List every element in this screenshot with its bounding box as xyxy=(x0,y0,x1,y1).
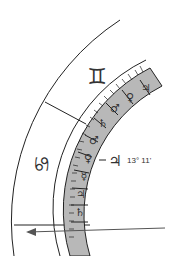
ascendant-arrow-line xyxy=(28,228,165,232)
arrow-head-icon xyxy=(26,228,36,236)
band-glyph-saturn-2: ♄ xyxy=(75,206,85,219)
astrology-wheel-fragment: ♃ ♀ ♂ ♄ ♂ ♀ ☿ ♃ ♄ ♊ ♋ ♃ 13° 11' xyxy=(0,0,174,256)
sign-gemini-icon: ♊ xyxy=(87,64,107,89)
sign-divider-line xyxy=(45,102,86,124)
band-glyph-jupiter: ♃ xyxy=(141,82,151,95)
sign-cancer-icon: ♋ xyxy=(30,155,54,173)
band-glyph-venus-2: ♀ xyxy=(84,152,92,165)
band-glyph-saturn: ♄ xyxy=(98,117,108,130)
band-glyph-venus: ♀ xyxy=(126,91,134,104)
planet-marker-degree: 13° 11' xyxy=(127,156,152,165)
band-glyph-mars: ♂ xyxy=(110,102,120,115)
band-glyph-jupiter-2: ♃ xyxy=(76,188,86,201)
planet-marker-jupiter-icon: ♃ xyxy=(108,152,121,170)
band-glyph-mercury: ☿ xyxy=(81,170,88,183)
band-glyph-mars-2: ♂ xyxy=(89,134,99,147)
